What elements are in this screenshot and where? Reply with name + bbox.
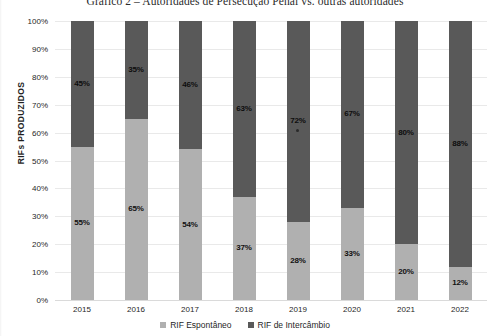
- bar-segment-espontaneo[interactable]: 20%: [395, 244, 418, 300]
- bar-group[interactable]: 12%88%: [449, 21, 472, 300]
- legend-swatch-icon: [248, 322, 254, 328]
- bar-segment-intercambio[interactable]: 45%: [71, 21, 94, 147]
- gridline: [55, 77, 487, 78]
- x-axis-tick-label: 2018: [221, 305, 267, 314]
- gridline: [55, 133, 487, 134]
- x-axis-tick-label: 2020: [329, 305, 375, 314]
- gridline: [55, 161, 487, 162]
- bar-segment-intercambio[interactable]: 88%: [449, 21, 472, 267]
- x-axis-tick-label: 2019: [275, 305, 321, 314]
- bar-group[interactable]: 54%46%: [179, 21, 202, 300]
- bar-value-label: 37%: [233, 243, 256, 252]
- chart-title: Gráfico 2 – Autoridades de Persecução Pe…: [0, 0, 490, 7]
- bar-value-label: 65%: [125, 204, 148, 213]
- bar-value-label: 20%: [395, 267, 418, 276]
- bar-group[interactable]: 33%67%: [341, 21, 364, 300]
- gridline: [55, 105, 487, 106]
- bar-value-label: 46%: [179, 80, 202, 89]
- bar-segment-intercambio[interactable]: 67%: [341, 21, 364, 208]
- y-axis-tick-label: 10%: [8, 268, 48, 277]
- bar-group[interactable]: 20%80%: [395, 21, 418, 300]
- bar-segment-espontaneo[interactable]: 12%: [449, 267, 472, 300]
- gridline: [55, 272, 487, 273]
- bar-group[interactable]: 65%35%: [125, 21, 148, 300]
- bar-segment-intercambio[interactable]: 80%: [395, 21, 418, 244]
- x-axis-tick-label: 2022: [437, 305, 483, 314]
- x-axis-tick-label: 2016: [113, 305, 159, 314]
- bar-value-label: 67%: [341, 109, 364, 118]
- y-axis-tick-label: 80%: [8, 72, 48, 81]
- gridline: [55, 21, 487, 22]
- bar-value-label: 54%: [179, 220, 202, 229]
- legend-label: RIF de Intercâmbio: [258, 320, 330, 330]
- bar-segment-intercambio[interactable]: 46%: [179, 21, 202, 149]
- bar-segment-espontaneo[interactable]: 65%: [125, 119, 148, 300]
- bar-value-label: 45%: [71, 79, 94, 88]
- bar-value-label: 80%: [395, 128, 418, 137]
- gridline: [55, 216, 487, 217]
- chart-legend: RIF EspontâneoRIF de Intercâmbio: [0, 320, 490, 330]
- legend-label: RIF Espontâneo: [170, 320, 231, 330]
- bar-value-label: 12%: [449, 278, 472, 287]
- y-axis-tick-label: 90%: [8, 44, 48, 53]
- bar-value-label: 55%: [71, 218, 94, 227]
- bar-segment-espontaneo[interactable]: 54%: [179, 149, 202, 300]
- gridline: [55, 300, 487, 301]
- bar-value-label: 88%: [449, 139, 472, 148]
- scan-edge-artifact: [0, 0, 2, 336]
- bar-segment-intercambio[interactable]: 63%: [233, 21, 256, 197]
- y-axis-tick-label: 100%: [8, 17, 48, 26]
- bar-segment-espontaneo[interactable]: 55%: [71, 147, 94, 300]
- y-axis-tick-label: 20%: [8, 240, 48, 249]
- bar-group[interactable]: 55%45%: [71, 21, 94, 300]
- bar-segment-intercambio[interactable]: 35%: [125, 21, 148, 119]
- gridline: [55, 188, 487, 189]
- bar-segment-espontaneo[interactable]: 33%: [341, 208, 364, 300]
- bar-segment-intercambio[interactable]: 72%: [287, 21, 310, 222]
- bar-value-label: 63%: [233, 104, 256, 113]
- legend-item[interactable]: RIF Espontâneo: [160, 320, 231, 330]
- y-axis-tick-label: 0%: [8, 296, 48, 305]
- bar-group[interactable]: 37%63%: [233, 21, 256, 300]
- bar-value-label: 28%: [287, 256, 310, 265]
- bar-value-label: 35%: [125, 65, 148, 74]
- y-axis-tick-label: 40%: [8, 184, 48, 193]
- y-axis-tick-label: 50%: [8, 156, 48, 165]
- y-axis-title: RIFs PRODUZIDOS: [16, 58, 26, 188]
- legend-swatch-icon: [160, 322, 166, 328]
- y-axis-tick-label: 70%: [8, 100, 48, 109]
- scan-speck-artifact: [296, 129, 299, 132]
- y-axis-tick-label: 30%: [8, 212, 48, 221]
- x-axis-tick-label: 2021: [383, 305, 429, 314]
- legend-item[interactable]: RIF de Intercâmbio: [248, 320, 330, 330]
- bar-value-label: 33%: [341, 249, 364, 258]
- x-axis-tick-label: 2015: [59, 305, 105, 314]
- gridline: [55, 244, 487, 245]
- bar-segment-espontaneo[interactable]: 37%: [233, 197, 256, 300]
- bar-value-label: 72%: [287, 116, 310, 125]
- y-axis-tick-label: 60%: [8, 128, 48, 137]
- bar-group[interactable]: 28%72%: [287, 21, 310, 300]
- bar-segment-espontaneo[interactable]: 28%: [287, 222, 310, 300]
- x-axis-tick-label: 2017: [167, 305, 213, 314]
- plot-area: 55%45%65%35%54%46%37%63%28%72%33%67%20%8…: [55, 21, 487, 300]
- gridline: [55, 49, 487, 50]
